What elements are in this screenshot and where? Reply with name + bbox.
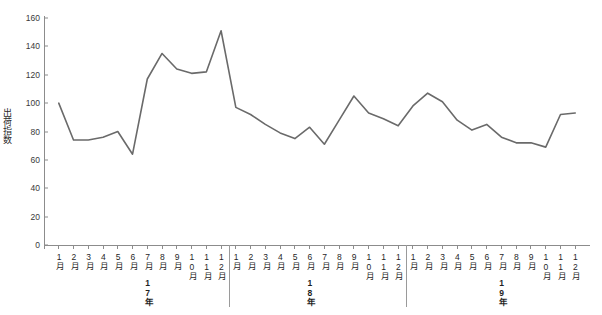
x-tick-label: 12月 <box>217 252 226 281</box>
x-tick-mark <box>339 245 340 249</box>
x-tick-mark <box>530 245 531 249</box>
x-tick-label: 7月 <box>320 252 329 271</box>
x-tick-label: 3月 <box>84 252 93 271</box>
x-tick-mark <box>44 245 45 249</box>
x-tick-mark <box>353 245 354 249</box>
x-tick-mark <box>471 245 472 249</box>
x-axis-year-label: 18年 <box>305 278 314 307</box>
x-tick-mark <box>206 245 207 249</box>
y-tick-label: 60 <box>31 156 40 165</box>
x-tick-mark <box>191 245 192 249</box>
x-tick-label: 2月 <box>246 252 255 271</box>
x-axis-year-label: 19年 <box>497 278 506 307</box>
x-tick-mark <box>221 245 222 249</box>
x-tick-mark <box>294 245 295 249</box>
x-tick-label: 4月 <box>276 252 285 271</box>
x-tick-mark <box>58 245 59 249</box>
x-tick-label: 2月 <box>423 252 432 271</box>
x-tick-mark <box>412 245 413 249</box>
y-tick-label: 140 <box>26 42 40 51</box>
x-tick-mark <box>235 245 236 249</box>
x-tick-label: 1月 <box>55 252 64 271</box>
x-tick-label: 6月 <box>482 252 491 271</box>
x-tick-label: 10月 <box>364 252 373 281</box>
x-tick-label: 3月 <box>261 252 270 271</box>
x-tick-label: 4月 <box>99 252 108 271</box>
x-tick-mark <box>442 245 443 249</box>
x-tick-label: 11月 <box>202 252 211 281</box>
x-tick-mark <box>560 245 561 249</box>
x-tick-label: 11月 <box>556 252 565 281</box>
x-tick-label: 8月 <box>335 252 344 271</box>
plot-area <box>44 18 590 245</box>
x-tick-mark <box>368 245 369 249</box>
x-tick-mark <box>486 245 487 249</box>
y-tick-label: 0 <box>35 241 40 250</box>
x-tick-mark <box>545 245 546 249</box>
series-line <box>44 18 590 245</box>
x-tick-label: 1月 <box>232 252 241 271</box>
x-tick-mark <box>132 245 133 249</box>
x-tick-mark <box>383 245 384 249</box>
x-tick-label: 9月 <box>173 252 182 271</box>
x-tick-label: 4月 <box>453 252 462 271</box>
x-tick-mark <box>265 245 266 249</box>
x-tick-label: 3月 <box>438 252 447 271</box>
y-tick-label: 100 <box>26 99 40 108</box>
x-tick-label: 7月 <box>497 252 506 271</box>
x-tick-mark <box>398 245 399 249</box>
y-tick-label: 120 <box>26 71 40 80</box>
x-tick-label: 12月 <box>394 252 403 281</box>
x-tick-label: 9月 <box>350 252 359 271</box>
x-tick-mark <box>162 245 163 249</box>
x-tick-mark <box>516 245 517 249</box>
y-tick-label: 160 <box>26 14 40 23</box>
y-tick-label: 40 <box>31 184 40 193</box>
x-tick-label: 10月 <box>541 252 550 281</box>
x-tick-label: 5月 <box>468 252 477 271</box>
x-tick-label: 6月 <box>305 252 314 271</box>
y-axis-tick-labels: 020406080100120140160 <box>0 0 40 315</box>
x-tick-label: 6月 <box>128 252 137 271</box>
x-tick-mark <box>324 245 325 249</box>
x-tick-mark <box>176 245 177 249</box>
x-tick-label: 12月 <box>571 252 580 281</box>
x-tick-mark <box>103 245 104 249</box>
x-tick-mark <box>117 245 118 249</box>
x-tick-label: 5月 <box>114 252 123 271</box>
x-tick-label: 11月 <box>379 252 388 281</box>
x-tick-label: 5月 <box>291 252 300 271</box>
shipment-index-line-chart: 出荷指数 020406080100120140160 1月2月3月4月5月6月7… <box>0 0 602 315</box>
x-tick-mark <box>250 245 251 249</box>
x-tick-mark <box>280 245 281 249</box>
x-tick-label: 8月 <box>158 252 167 271</box>
x-tick-mark <box>309 245 310 249</box>
x-axis-line <box>44 245 590 246</box>
x-tick-mark <box>457 245 458 249</box>
y-tick-label: 80 <box>31 127 40 136</box>
x-tick-mark <box>427 245 428 249</box>
x-tick-label: 1月 <box>409 252 418 271</box>
x-tick-label: 8月 <box>512 252 521 271</box>
year-separator-line <box>229 245 230 307</box>
x-tick-mark <box>147 245 148 249</box>
x-tick-mark <box>88 245 89 249</box>
year-separator-line <box>406 245 407 307</box>
y-tick-label: 20 <box>31 212 40 221</box>
x-tick-label: 7月 <box>143 252 152 271</box>
x-tick-mark <box>73 245 74 249</box>
x-tick-label: 2月 <box>69 252 78 271</box>
x-axis-year-label: 17年 <box>143 278 152 307</box>
x-tick-label: 10月 <box>187 252 196 281</box>
x-tick-mark <box>575 245 576 249</box>
x-tick-label: 9月 <box>527 252 536 271</box>
x-tick-mark <box>501 245 502 249</box>
